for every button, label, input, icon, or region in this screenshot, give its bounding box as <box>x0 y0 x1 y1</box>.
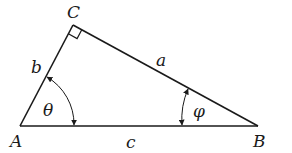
side-label-b: b <box>31 57 42 77</box>
side-label-a: a <box>156 50 166 70</box>
angle-label-phi: φ <box>193 101 205 121</box>
angle-label-theta: θ <box>43 100 53 120</box>
vertex-label-c: C <box>67 2 80 22</box>
side-a <box>73 25 258 126</box>
vertex-label-a: A <box>8 131 22 151</box>
right-triangle-diagram: A B C a b c θ φ <box>0 0 292 153</box>
vertex-label-b: B <box>252 131 266 151</box>
side-label-c: c <box>126 132 136 152</box>
phi-arc <box>182 89 188 125</box>
